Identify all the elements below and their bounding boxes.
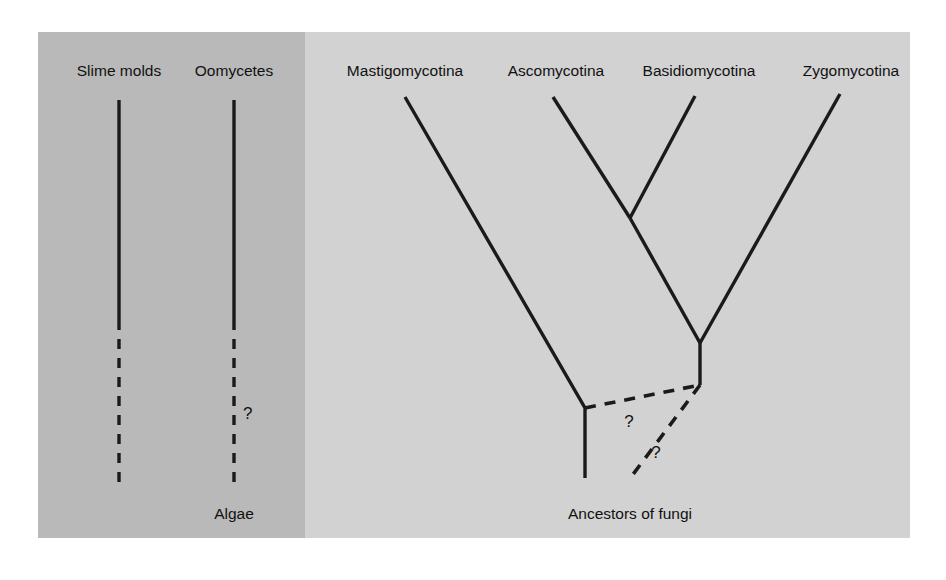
- label-mastigomycotina: Mastigomycotina: [347, 62, 464, 79]
- label-slime-molds: Slime molds: [77, 62, 162, 79]
- label-ascomycotina: Ascomycotina: [508, 62, 605, 79]
- label-algae: Algae: [214, 505, 254, 522]
- label-ancestors-of-fungi: Ancestors of fungi: [568, 505, 692, 522]
- label-zygomycotina: Zygomycotina: [803, 62, 900, 79]
- question-mark-lower: ?: [651, 443, 660, 462]
- label-oomycetes: Oomycetes: [195, 62, 274, 79]
- question-mark-oomycetes: ?: [243, 404, 252, 423]
- phylogenetic-tree-figure: Slime molds Oomycetes ? Algae Mastigomyc…: [0, 0, 946, 580]
- non-fungal-panel-background: [38, 32, 305, 538]
- fungi-panel-background: [305, 32, 910, 538]
- question-mark-upper: ?: [624, 412, 633, 431]
- label-basidiomycotina: Basidiomycotina: [643, 62, 756, 79]
- tree-canvas: Slime molds Oomycetes ? Algae Mastigomyc…: [0, 0, 946, 580]
